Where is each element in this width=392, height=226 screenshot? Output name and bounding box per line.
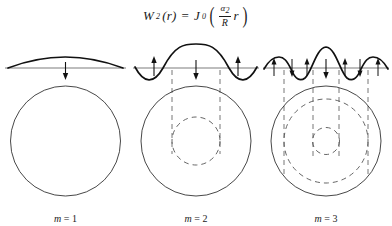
formula-lhs-argument: (r)	[162, 8, 176, 24]
mode-shape-diagram-m3	[260, 42, 392, 212]
outer-circle-m1	[11, 86, 121, 196]
panel-label-variable-m2: m	[185, 213, 192, 224]
nodal-circle-1-m3	[284, 99, 368, 183]
formula-caption: W2(r) = J0 ( α2 R r )	[0, 4, 392, 28]
formula-denominator: R	[221, 18, 229, 28]
formula-numerator-subscript: 2	[225, 6, 229, 15]
panel-m2: m = 2	[130, 42, 262, 226]
load-arrow-down-center-m1	[63, 62, 68, 80]
panel-label-m3: m = 3	[260, 213, 392, 224]
formula-fraction: α2 R	[219, 4, 230, 28]
load-arrow-down-center-m3	[323, 59, 328, 79]
load-arrow-up-far-right-m3	[376, 58, 381, 76]
figure-canvas: W2(r) = J0 ( α2 R r )	[0, 0, 392, 226]
formula-lhs-symbol: W	[143, 8, 154, 24]
formula-multiplier: r	[234, 8, 239, 24]
formula-open-paren: (	[210, 3, 215, 27]
formula-bessel-symbol: J	[194, 8, 200, 24]
panel-label-value-m2: 2	[202, 213, 207, 224]
panel-m1: m = 1	[0, 42, 131, 226]
outer-circle-m3	[271, 86, 381, 196]
load-arrow-down-center-m2	[193, 60, 198, 80]
load-arrow-up-right-m2	[235, 56, 240, 76]
panel-label-value-m3: 3	[332, 213, 337, 224]
formula-equals: =	[182, 8, 190, 24]
mode-shape-diagram-m2	[130, 42, 262, 212]
formula-lhs-subscript: 2	[156, 12, 160, 21]
mode-shape-diagram-m1	[0, 42, 131, 212]
nodal-circle-2-m3	[313, 128, 340, 155]
outer-circle-m2	[141, 86, 251, 196]
nodal-circle-1-m2	[172, 117, 220, 165]
panel-label-m2: m = 2	[130, 213, 262, 224]
panel-label-value-m1: 1	[72, 213, 77, 224]
panel-label-m1: m = 1	[0, 213, 131, 224]
load-arrow-up-left-m2	[151, 56, 156, 76]
panel-label-variable-m3: m	[315, 213, 322, 224]
panel-m3: m = 3	[260, 42, 392, 226]
load-arrow-up-far-left-m3	[272, 58, 277, 76]
formula-close-paren: )	[242, 3, 247, 27]
formula-bessel-subscript: 0	[202, 12, 206, 21]
formula-numerator-group: α2	[219, 4, 230, 15]
